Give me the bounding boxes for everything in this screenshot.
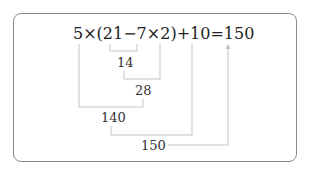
- result-arrow-line: [168, 46, 228, 145]
- label-150: 150: [141, 138, 166, 153]
- calculation-diagram: 5×(21−7×2)+10=150 14 28 140 150: [0, 0, 310, 169]
- bracket-5x: [79, 44, 143, 107]
- label-140: 140: [101, 110, 126, 125]
- label-28: 28: [135, 83, 152, 98]
- label-14: 14: [117, 55, 134, 70]
- expression: 5×(21−7×2)+10=150: [73, 24, 254, 43]
- bracket-7x2: [110, 44, 137, 51]
- arrow-head-icon: [226, 44, 231, 49]
